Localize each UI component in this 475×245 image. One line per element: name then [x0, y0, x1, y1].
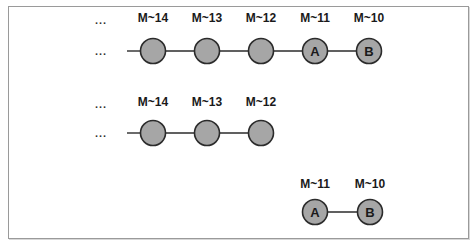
ellipsis-label: ...	[95, 14, 107, 26]
commit-label: M~12	[246, 11, 277, 25]
commit-node	[195, 39, 220, 64]
commit-label: M~13	[192, 95, 223, 109]
commit-node	[141, 39, 166, 64]
commit-node-letter: A	[310, 44, 320, 59]
commit-label: M~12	[246, 95, 277, 109]
commit-label: M~11	[300, 11, 330, 25]
commit-node-letter: A	[310, 205, 320, 220]
commit-label: M~14	[138, 11, 169, 25]
commit-label: M~11	[300, 177, 330, 191]
commit-label: M~13	[192, 11, 223, 25]
commit-node	[195, 121, 220, 146]
commit-node	[141, 121, 166, 146]
commit-node	[249, 121, 274, 146]
commit-label: M~10	[355, 177, 386, 191]
ellipsis-label: ...	[95, 45, 107, 57]
commit-node-letter: B	[365, 205, 374, 220]
commit-label: M~14	[138, 95, 169, 109]
commit-graph-diagram: ......M~14M~13M~12M~11AM~10B......M~14M~…	[0, 0, 475, 245]
commit-label: M~10	[354, 11, 385, 25]
commit-node-letter: B	[364, 44, 373, 59]
ellipsis-label: ...	[95, 98, 107, 110]
ellipsis-label: ...	[95, 127, 107, 139]
commit-node	[249, 39, 274, 64]
